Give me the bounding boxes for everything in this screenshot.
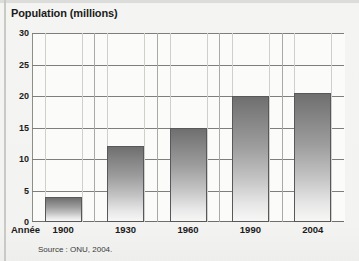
bar-column-rule	[331, 33, 332, 222]
category-divider	[94, 33, 95, 222]
bar-column-rule	[144, 33, 145, 222]
x-tick-label-1930: 1930	[115, 224, 136, 235]
x-tick-label-1960: 1960	[177, 224, 198, 235]
gridline-30	[32, 33, 344, 34]
gridline-25	[32, 65, 344, 66]
y-tick-label-20: 20	[3, 91, 29, 101]
bar-column-rule	[45, 33, 46, 222]
x-tick-label-1990: 1990	[240, 224, 261, 235]
x-axis-title: Année	[11, 224, 40, 235]
x-tick-label-2004: 2004	[302, 224, 323, 235]
bar-column-rule	[82, 33, 83, 222]
bar-1900	[45, 197, 82, 222]
y-axis-labels: 051015202530	[0, 33, 29, 222]
bar-1960	[170, 128, 207, 223]
bar-column-rule	[269, 33, 270, 222]
x-tick-label-1900: 1900	[53, 224, 74, 235]
x-axis: Année 19001930196019902004	[0, 224, 359, 240]
category-divider	[219, 33, 220, 222]
chart-title: Population (millions)	[11, 7, 118, 19]
bar-1990	[232, 96, 269, 222]
plot-area	[32, 33, 344, 222]
y-tick-label-15: 15	[3, 123, 29, 133]
y-tick-label-10: 10	[3, 154, 29, 164]
y-tick-label-5: 5	[3, 186, 29, 196]
source-note: Source : ONU, 2004.	[38, 245, 112, 254]
bar-1930	[107, 146, 144, 222]
chart-figure: Population (millions) 051015202530 Année…	[0, 0, 359, 261]
top-rule	[0, 0, 359, 3]
bar-column-rule	[207, 33, 208, 222]
category-divider	[157, 33, 158, 222]
y-tick-label-30: 30	[3, 28, 29, 38]
category-divider	[282, 33, 283, 222]
bar-2004	[294, 93, 331, 222]
y-tick-label-25: 25	[3, 60, 29, 70]
